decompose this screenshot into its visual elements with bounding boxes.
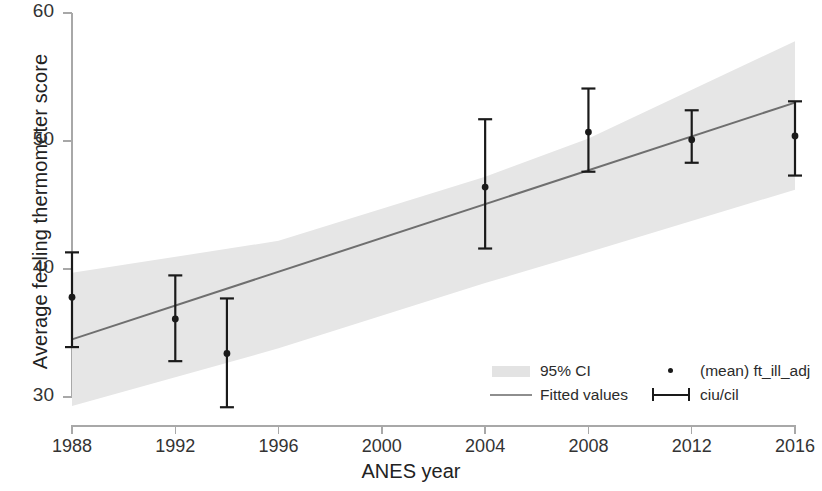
legend-label-ci: 95% CI xyxy=(540,360,591,382)
legend-label-mean: (mean) ft_ill_adj xyxy=(700,360,810,382)
chart-canvas: Average feeling thermometer score 304050… xyxy=(0,0,822,491)
fitted-line-swatch-icon xyxy=(488,384,534,406)
chart-legend: 95% CI Fitted values (mean) ft_ill_adj c… xyxy=(488,360,818,412)
legend-label-errorbar: ciu/cil xyxy=(700,384,739,406)
mean-dot-swatch-icon xyxy=(648,360,694,382)
legend-label-fitted: Fitted values xyxy=(540,384,628,406)
plot-area xyxy=(0,0,822,491)
errorbar-swatch-icon xyxy=(648,384,694,406)
ci-band xyxy=(72,41,795,406)
ci-band-swatch-icon xyxy=(488,360,534,382)
x-axis-title: ANES year xyxy=(0,460,822,483)
